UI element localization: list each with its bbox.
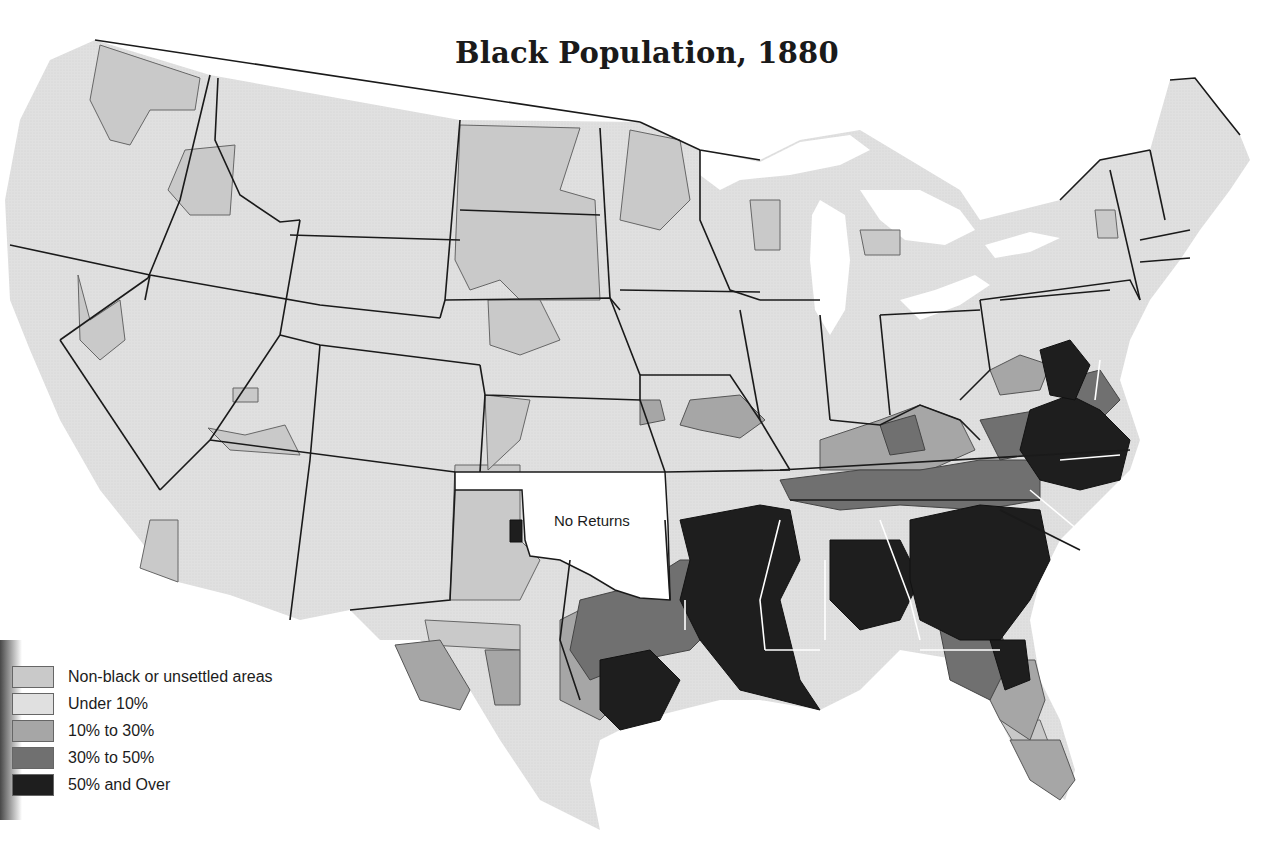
legend-label: 30% to 50% <box>68 749 154 767</box>
legend-item-unsettled: Non-black or unsettled areas <box>12 663 273 690</box>
legend-label: Under 10% <box>68 695 148 713</box>
legend-swatch <box>12 666 54 688</box>
legend-item-under-10: Under 10% <box>12 690 273 717</box>
legend: Non-black or unsettled areas Under 10% 1… <box>12 663 273 798</box>
legend-swatch <box>12 693 54 715</box>
legend-label: Non-black or unsettled areas <box>68 668 273 686</box>
legend-label: 50% and Over <box>68 776 170 794</box>
legend-item-10-30: 10% to 30% <box>12 717 273 744</box>
legend-swatch <box>12 747 54 769</box>
legend-swatch <box>12 774 54 796</box>
no-returns-label: No Returns <box>554 512 630 529</box>
legend-swatch <box>12 720 54 742</box>
legend-label: 10% to 30% <box>68 722 154 740</box>
legend-item-30-50: 30% to 50% <box>12 744 273 771</box>
legend-item-50-over: 50% and Over <box>12 771 273 798</box>
